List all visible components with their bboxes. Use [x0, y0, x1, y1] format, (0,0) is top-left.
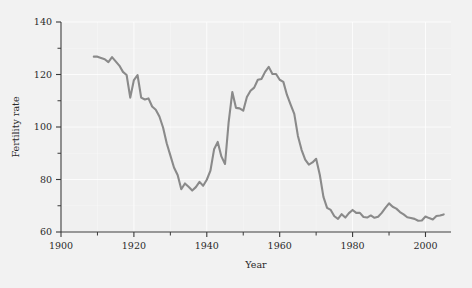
fertility-rate-line-chart: 190019201940196019802000 6080100120140 Y…: [0, 0, 472, 288]
chart-figure: 190019201940196019802000 6080100120140 Y…: [0, 0, 472, 288]
x-tick-label: 1920: [122, 240, 146, 251]
x-tick-label: 2000: [413, 240, 437, 251]
y-tick-label: 140: [34, 16, 52, 27]
y-tick-label: 100: [34, 121, 52, 132]
y-tick-label: 120: [34, 69, 52, 80]
y-tick-label: 80: [40, 174, 52, 185]
x-tick-label: 1980: [340, 240, 364, 251]
x-tick-label: 1960: [268, 240, 292, 251]
y-tick-label: 60: [40, 226, 52, 237]
y-axis-title: Fertility rate: [10, 96, 21, 157]
x-axis-title: Year: [244, 259, 267, 270]
x-tick-label: 1940: [195, 240, 219, 251]
x-tick-label: 1900: [49, 240, 73, 251]
